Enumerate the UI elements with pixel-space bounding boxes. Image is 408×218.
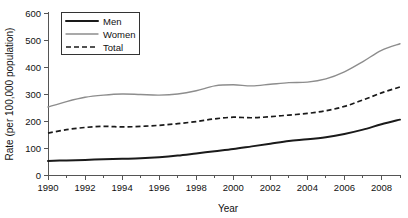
y-axis-title: Rate (per 100,000 population) (4, 28, 15, 161)
chart-legend: Men Women Total (61, 12, 139, 54)
x-tick-label: 1996 (149, 182, 170, 193)
x-axis-title: Year (218, 203, 239, 214)
legend-label-women: Women (103, 29, 136, 40)
x-tick-label: 2004 (297, 182, 318, 193)
x-tick-label: 2008 (371, 182, 392, 193)
y-tick-label: 600 (25, 8, 41, 19)
y-tick-label: 100 (25, 143, 41, 154)
y-tick-label: 0 (36, 170, 41, 181)
legend-label-total: Total (103, 42, 123, 53)
y-tick-label: 200 (25, 116, 41, 127)
legend-label-men: Men (103, 16, 121, 27)
x-tick-label: 1992 (74, 182, 95, 193)
y-tick-label: 500 (25, 35, 41, 46)
x-tick-label: 2006 (334, 182, 355, 193)
y-axis-tick-marks (44, 13, 48, 175)
x-tick-label: 2002 (260, 182, 281, 193)
x-axis-tick-marks (48, 175, 400, 180)
x-tick-label: 1998 (186, 182, 207, 193)
x-tick-label: 1994 (112, 182, 133, 193)
chart-canvas: 0100200300400500600 19901992199419961998… (0, 0, 408, 218)
series-line-men (48, 120, 400, 161)
y-axis-tick-labels: 0100200300400500600 (25, 8, 41, 181)
x-tick-label: 1990 (37, 182, 58, 193)
x-axis-tick-labels: 1990199219941996199820002002200420062008 (37, 182, 392, 193)
series-line-total (48, 87, 400, 133)
y-tick-label: 300 (25, 89, 41, 100)
line-chart: 0100200300400500600 19901992199419961998… (0, 0, 408, 218)
x-tick-label: 2000 (223, 182, 244, 193)
y-tick-label: 400 (25, 62, 41, 73)
